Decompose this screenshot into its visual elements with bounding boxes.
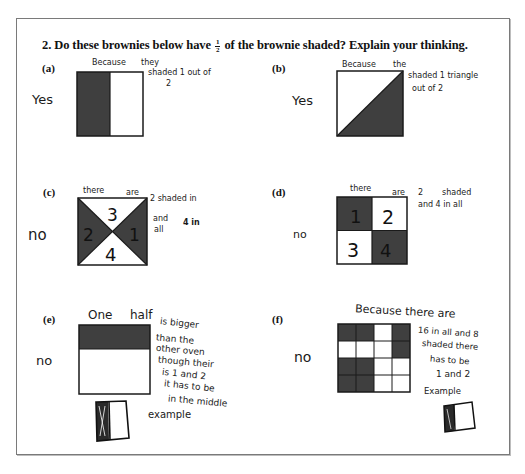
region-number-1: 1: [350, 206, 361, 227]
item-e-answer: no: [36, 353, 52, 368]
item-a-explanation-2: they: [141, 58, 159, 68]
item-a-label: (a): [42, 62, 55, 74]
brownie-figure-b: [336, 70, 404, 137]
example-sketch-e: [94, 400, 130, 442]
brownie-figure-a: [76, 71, 144, 137]
item-f-explanation-6: Example: [424, 386, 461, 396]
item-e-label: (e): [43, 313, 55, 325]
item-c-explanation-6: all: [154, 225, 163, 235]
brownie-figure-e: [78, 324, 151, 395]
item-c-answer: no: [28, 226, 47, 244]
region-number-3: 3: [107, 205, 118, 225]
item-a-explanation-3: shaded 1 out of: [148, 68, 211, 78]
item-b-answer: Yes: [292, 93, 313, 108]
item-d-explanation-4: shaded: [442, 188, 471, 198]
brownie-figure-f: [337, 323, 411, 393]
item-c-label: (c): [43, 186, 55, 198]
item-d-label: (d): [272, 186, 285, 198]
item-d-answer: no: [293, 228, 307, 241]
item-a-explanation-4: 2: [166, 79, 171, 89]
question-number: 2.: [42, 38, 51, 52]
item-d-explanation-5: and 4 in all: [418, 200, 462, 210]
example-sketch-f: [442, 401, 476, 433]
item-a-answer: Yes: [32, 92, 53, 107]
region-number-2: 2: [382, 206, 394, 228]
item-c-explanation-5: 4 in: [183, 218, 200, 228]
item-b-explanation-3: shaded 1 triangle: [408, 71, 478, 81]
question-text-before: Do these brownies below have: [54, 38, 211, 52]
brownie-figure-d: 1 2 3 4: [336, 196, 408, 265]
item-b-explanation-1: Because: [342, 60, 376, 70]
item-a-explanation-1: Because: [92, 58, 126, 68]
question-text-after: of the brownie shaded? Explain your thin…: [224, 38, 467, 52]
item-d-explanation-1: there: [350, 184, 371, 194]
item-e-explanation-10: example: [148, 410, 191, 420]
item-c-explanation-1: there: [83, 186, 104, 196]
region-number-4: 4: [105, 244, 116, 265]
item-b-label: (b): [272, 62, 285, 74]
item-d-explanation-3: 2: [418, 188, 423, 198]
item-e-explanation-2: half: [130, 310, 153, 320]
question-prompt: 2. Do these brownies below have 1 2 of t…: [42, 38, 468, 54]
region-number-2: 2: [83, 225, 94, 245]
item-b-explanation-4: out of 2: [412, 84, 443, 94]
item-e-explanation-1: One: [88, 310, 112, 320]
item-b-explanation-2: the: [393, 60, 406, 70]
brownie-figure-c: 3 2 1 4: [77, 197, 148, 266]
region-number-1: 1: [129, 225, 140, 245]
item-c-explanation-4: and: [153, 214, 168, 224]
fraction-one-half: 1 2: [215, 39, 220, 54]
region-number-3: 3: [347, 239, 359, 261]
item-f-label: (f): [272, 313, 283, 325]
item-f-explanation-5: 1 and 2: [436, 369, 470, 379]
region-number-4: 4: [380, 240, 391, 261]
item-c-explanation-3: 2 shaded in: [150, 194, 197, 204]
item-f-answer: no: [294, 349, 311, 365]
